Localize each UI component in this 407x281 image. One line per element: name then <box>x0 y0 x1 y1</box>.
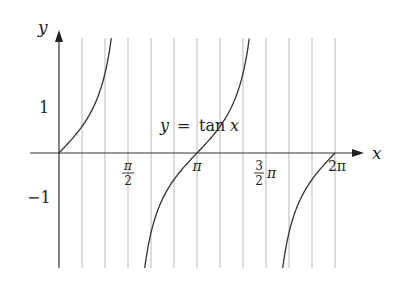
y-axis-label: y <box>37 17 48 37</box>
x-tick-label-pi: π <box>191 158 202 174</box>
fraction-denominator: 2 <box>124 174 132 188</box>
tan-branch-curve <box>59 38 111 153</box>
fraction-numerator: π <box>123 159 133 173</box>
y-axis-arrow-icon <box>55 30 63 42</box>
fraction-denominator: 2 <box>255 174 263 188</box>
x-axis-arrow-icon <box>352 149 364 157</box>
x-axis-label: x <box>372 143 382 163</box>
pi-symbol: π <box>266 165 277 181</box>
y-tick-label-1: 1 <box>39 98 49 117</box>
equation-equals: = <box>177 116 190 135</box>
equation-function: tan <box>199 116 225 135</box>
equation-lhs: y <box>159 116 170 135</box>
equation-argument: x <box>230 116 239 135</box>
fraction-numerator: 3 <box>255 159 263 173</box>
x-tick-label-pi-over-2: π 2 <box>122 159 134 188</box>
y-tick-label-minus-1: −1 <box>27 188 51 207</box>
x-tick-label-2pi: 2π <box>328 158 346 174</box>
equation-label: y = tan x <box>159 116 239 135</box>
tan-plot: x y 1 −1 π 2 π 3 2 π 2π y = tan x <box>0 0 407 281</box>
